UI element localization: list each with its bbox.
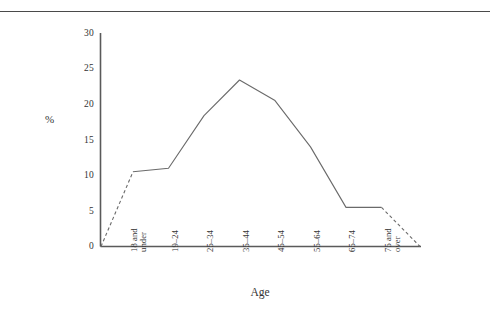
series-line-percent xyxy=(133,80,382,207)
y-axis-title: % xyxy=(45,113,54,125)
y-tick-label-20: 20 xyxy=(72,99,94,109)
figure-chart-percent-by-age: 30 25 20 15 10 5 0 % 18 and under 19–24 … xyxy=(0,0,490,313)
y-tick-label-5: 5 xyxy=(72,206,94,216)
x-tick-line-1: 45–54 xyxy=(277,230,286,252)
x-tick-line-1: 35–44 xyxy=(242,230,251,252)
y-tick-label-15: 15 xyxy=(72,135,94,145)
x-tick-line-2: under xyxy=(139,232,148,252)
line-chart-plot xyxy=(0,0,490,313)
x-tick-line-2: over xyxy=(393,236,402,252)
y-tick-label-25: 25 xyxy=(72,63,94,73)
y-tick-label-30: 30 xyxy=(72,28,94,38)
y-tick-label-0: 0 xyxy=(72,241,94,251)
x-tick-line-1: 25–34 xyxy=(206,230,215,252)
x-tick-line-1: 65–74 xyxy=(348,230,357,252)
x-axis-title-wrap: Age xyxy=(0,286,490,298)
x-tick-line-1: 55–64 xyxy=(313,230,322,252)
x-tick-line-1: 19–24 xyxy=(171,230,180,252)
y-tick-label-10: 10 xyxy=(72,170,94,180)
x-axis-title: Age xyxy=(250,286,269,298)
